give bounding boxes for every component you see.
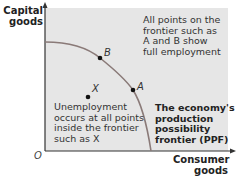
x-axis-label-text: Consumer goods [173,154,228,176]
origin-label: O [34,150,42,161]
y-axis-arrow-icon [43,2,48,8]
frontier-note-line: A and B show [143,36,221,47]
point-b [98,56,103,61]
unemployment-note-line: Unemployment [54,102,144,113]
point-a [131,88,136,93]
ppf-label: The economy's production possibility fro… [155,103,235,145]
x-axis-label: Consumer goods [173,154,228,176]
point-a-label: A [137,81,144,92]
x-axis-arrow-icon [230,149,236,154]
y-axis-label: Capital goods [3,5,43,27]
frontier-note: All points on the frontier such as A and… [143,15,221,57]
point-x-label: X [92,83,99,94]
ppf-label-line: possibility [155,124,235,135]
ppf-label-line: The economy's [155,103,235,114]
point-b-label: B [104,47,111,58]
frontier-note-line: full employment [143,47,221,58]
point-x [86,95,91,100]
ppf-label-line: frontier (PPF) [155,135,235,146]
frontier-note-line: All points on the [143,15,221,26]
unemployment-note: Unemployment occurs at all points inside… [54,102,144,144]
unemployment-note-line: such as X [54,134,144,145]
unemployment-note-line: inside the frontier [54,123,144,134]
